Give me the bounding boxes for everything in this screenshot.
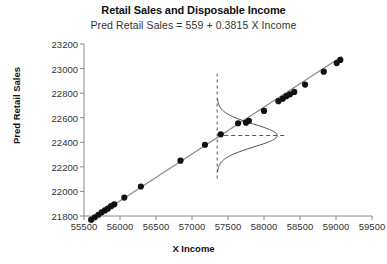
data-point: [235, 120, 241, 126]
data-point: [218, 131, 224, 137]
data-point: [302, 81, 308, 87]
data-point: [177, 158, 183, 164]
data-point: [202, 142, 208, 148]
data-point: [121, 194, 127, 200]
data-point: [337, 57, 343, 63]
chart-container: Retail Sales and Disposable Income Pred …: [0, 0, 387, 264]
data-point: [138, 183, 144, 189]
plot-area: [0, 0, 387, 264]
data-point: [321, 69, 327, 75]
data-point: [291, 89, 297, 95]
data-point: [246, 118, 252, 124]
data-point: [261, 108, 267, 114]
data-point: [111, 201, 117, 207]
